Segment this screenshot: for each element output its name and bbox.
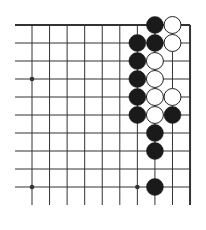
white-stone (146, 107, 163, 124)
white-stone (146, 89, 163, 106)
white-stone (164, 17, 181, 34)
star-point (135, 185, 140, 190)
black-stone (129, 35, 146, 52)
white-stone (164, 35, 181, 52)
white-stone (164, 89, 181, 106)
star-point (30, 77, 35, 82)
black-stone (146, 125, 163, 142)
black-stone (146, 35, 163, 52)
black-stone (129, 107, 146, 124)
black-stone (146, 179, 163, 196)
black-stone (146, 143, 163, 160)
star-point (30, 185, 35, 190)
white-stone (146, 53, 163, 70)
black-stone (129, 53, 146, 70)
black-stone (146, 17, 163, 34)
white-stone (146, 71, 163, 88)
black-stone (164, 107, 181, 124)
go-board (0, 0, 206, 230)
black-stone (129, 89, 146, 106)
black-stone (129, 71, 146, 88)
